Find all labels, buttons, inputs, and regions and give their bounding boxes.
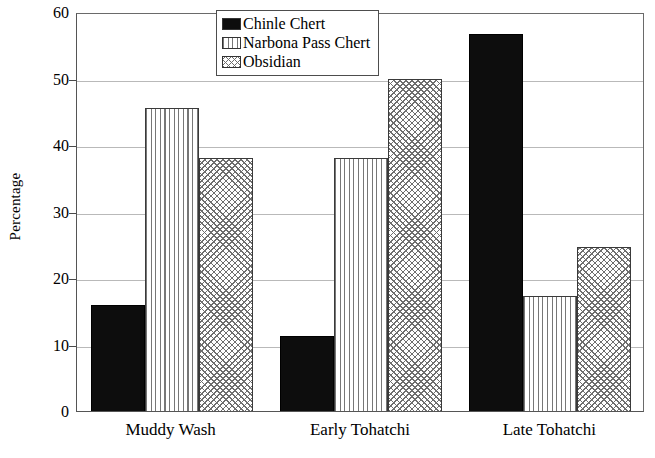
x-axis-category-label: Muddy Wash (76, 420, 265, 440)
legend-label: Chinle Chert (243, 16, 325, 32)
bar (334, 158, 388, 411)
y-axis-tick-mark (69, 279, 76, 280)
bar (388, 79, 442, 412)
bar (469, 34, 523, 411)
y-axis-tick-label: 60 (28, 5, 76, 21)
legend-label: Narbona Pass Chert (243, 35, 370, 51)
legend-swatch-icon (222, 56, 241, 68)
bar (145, 108, 199, 411)
x-axis-category-label: Late Tohatchi (455, 420, 644, 440)
y-axis-title-text: Percentage (8, 172, 25, 240)
bar (523, 296, 577, 411)
legend-item: Chinle Chert (222, 14, 370, 33)
y-axis-tick-labels: 0102030405060 (28, 0, 76, 458)
legend: Chinle ChertNarbona Pass ChertObsidian (216, 10, 379, 76)
y-axis-tick-label: 0 (28, 404, 76, 420)
bar (199, 158, 253, 411)
gridline (77, 81, 643, 82)
legend-swatch-icon (222, 37, 241, 49)
legend-item: Narbona Pass Chert (222, 33, 370, 52)
bar (280, 336, 334, 411)
y-axis-tick-mark (69, 213, 76, 214)
x-axis-category-label: Early Tohatchi (265, 420, 454, 440)
y-axis-tick-mark (69, 80, 76, 81)
bar (577, 247, 631, 411)
legend-swatch-icon (222, 18, 241, 30)
bar (91, 305, 145, 411)
bar-chart: Percentage 0102030405060 Muddy WashEarly… (0, 0, 655, 458)
y-axis-tick-mark (69, 346, 76, 347)
legend-item: Obsidian (222, 52, 370, 71)
legend-label: Obsidian (243, 54, 301, 70)
y-axis-tick-mark (69, 146, 76, 147)
